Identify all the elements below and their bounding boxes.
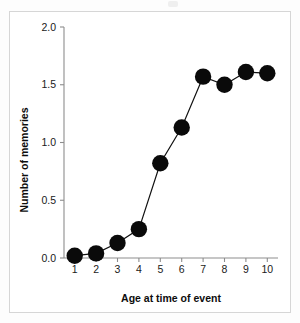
data-point-marker (195, 68, 211, 84)
y-tick-label: 1.5 (41, 78, 56, 90)
axes-lines (60, 27, 278, 262)
y-axis-tick-labels: 0.00.51.01.52.0 (41, 21, 56, 264)
x-tick-label: 4 (136, 263, 142, 275)
x-axis-tick-labels: 12345678910 (72, 263, 274, 275)
x-tick-label: 1 (72, 263, 78, 275)
data-point-marker (174, 119, 190, 135)
data-point-marker (238, 64, 254, 80)
x-tick-label: 10 (261, 263, 273, 275)
x-tick-label: 2 (93, 263, 99, 275)
data-point-marker (152, 155, 168, 171)
x-tick-label: 9 (243, 263, 249, 275)
data-point-marker (259, 65, 275, 81)
series-markers (67, 64, 276, 264)
y-tick-label: 0.5 (41, 194, 56, 206)
y-tick-label: 0.0 (41, 252, 56, 264)
x-tick-label: 6 (179, 263, 185, 275)
x-tick-label: 7 (200, 263, 206, 275)
y-tick-label: 1.0 (41, 136, 56, 148)
x-tick-label: 3 (115, 263, 121, 275)
data-point-marker (131, 221, 147, 237)
data-point-marker (88, 245, 104, 261)
x-tick-label: 5 (157, 263, 163, 275)
y-axis-title: Number of memories (18, 107, 30, 212)
line-chart: 0.00.51.01.52.0 12345678910 Number of me… (0, 0, 300, 323)
x-axis-title: Age at time of event (121, 292, 221, 304)
x-tick-label: 8 (222, 263, 228, 275)
data-point-marker (67, 247, 83, 263)
data-point-marker (216, 77, 232, 93)
y-tick-label: 2.0 (41, 21, 56, 33)
data-point-marker (109, 235, 125, 251)
figure-container: 0.00.51.01.52.0 12345678910 Number of me… (0, 0, 300, 323)
series-line-number-of-memories (75, 72, 268, 256)
